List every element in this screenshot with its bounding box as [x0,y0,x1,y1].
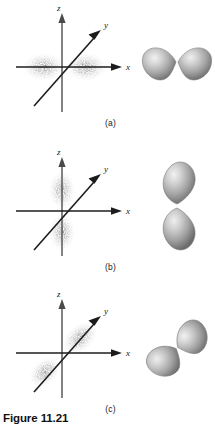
axes-plot-c: z x y [8,288,143,406]
p-orbital-lobes-diagonal [141,315,215,384]
p-orbital-lobes-vertical [163,162,195,250]
panel-label-a-text: (a) [99,118,116,128]
axis-label-x: x [125,206,130,216]
axis-label-x: x [125,348,130,358]
orbital-render-b [140,154,214,258]
axis-y [34,316,101,392]
orbital-render-a [140,10,214,114]
panel-label-b: (b) [0,262,215,272]
panel-label-a: (a) [0,118,215,128]
p-orbital-lobes-horizontal [142,48,211,80]
axes-plot-a: z x y [8,2,143,120]
figure-panel-a: z x y [0,2,215,142]
axes-plot-b: z x y [8,146,143,264]
figure-caption: Figure 11.21 [3,412,68,424]
axis-label-z: z [56,147,61,157]
axis-label-y: y [103,164,108,174]
panel-label-c-text: (c) [99,404,116,414]
figure-panel-c: z x y [0,288,215,428]
axis-label-y: y [103,306,108,316]
axis-label-x: x [125,62,130,72]
axis-label-z: z [56,289,61,299]
figure-panel-b: z x y [0,146,215,286]
axis-label-y: y [103,20,108,30]
orbital-render-c [140,296,214,400]
figure-11-21: z x y [0,0,215,433]
panel-label-b-text: (b) [99,262,116,272]
axis-label-z: z [56,3,61,13]
